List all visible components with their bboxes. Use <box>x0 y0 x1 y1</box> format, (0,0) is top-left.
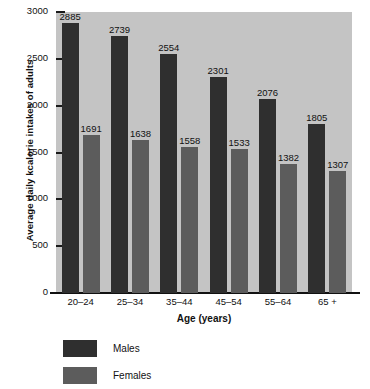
bar-females-1: 1638 <box>132 140 149 293</box>
bar-value-label: 1382 <box>278 152 299 163</box>
legend-swatch <box>63 340 97 357</box>
bar-females-5: 1307 <box>329 171 346 293</box>
y-axis-tick-label: 2000 <box>0 99 48 110</box>
bar-value-label: 2739 <box>109 24 130 35</box>
bar-males-2: 2554 <box>160 54 177 293</box>
y-axis-tick-label: 1500 <box>0 146 48 157</box>
bar-value-label: 2554 <box>158 42 179 53</box>
bar-value-label: 1805 <box>306 112 327 123</box>
legend-item-females: Females <box>63 365 151 386</box>
bar-females-3: 1533 <box>231 149 248 293</box>
bar-value-label: 1638 <box>130 128 151 139</box>
bar-value-label: 1307 <box>327 159 348 170</box>
bar-females-0: 1691 <box>83 135 100 293</box>
legend-label: Males <box>113 343 140 354</box>
bar-value-label: 1558 <box>179 135 200 146</box>
bar-females-2: 1558 <box>181 147 198 293</box>
bar-males-1: 2739 <box>111 36 128 293</box>
legend-label: Females <box>113 370 151 381</box>
y-axis-tick-label: 500 <box>0 239 48 250</box>
x-axis-label: 65 + <box>297 296 357 307</box>
bar-males-0: 2885 <box>62 23 79 293</box>
bar-value-label: 2076 <box>257 87 278 98</box>
bar-value-label: 2301 <box>208 65 229 76</box>
y-axis-tick-label: 0 <box>0 286 48 297</box>
bar-value-label: 2885 <box>60 11 81 22</box>
y-axis-tick-label: 1000 <box>0 192 48 203</box>
bar-value-label: 1533 <box>229 137 250 148</box>
bar-males-4: 2076 <box>259 99 276 293</box>
y-axis-tick-label: 2500 <box>0 52 48 63</box>
y-axis-tick-label: 3000 <box>0 5 48 16</box>
bar-males-5: 1805 <box>308 124 325 293</box>
legend: MalesFemales <box>63 338 151 389</box>
bar-value-label: 1691 <box>81 123 102 134</box>
x-axis-title: Age (years) <box>56 313 352 324</box>
bar-males-3: 2301 <box>210 77 227 293</box>
legend-swatch <box>63 367 97 384</box>
bar-chart: Average daily kcalorie intakes of adults… <box>0 0 370 389</box>
bar-females-4: 1382 <box>280 164 297 293</box>
legend-item-males: Males <box>63 338 151 359</box>
